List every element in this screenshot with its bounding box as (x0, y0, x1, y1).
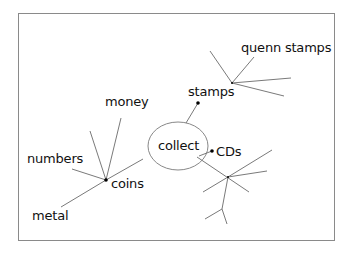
cds-sub-line-5 (205, 209, 222, 219)
numbers-line (72, 169, 106, 180)
stamps-connector (186, 103, 198, 123)
cds-sub-line-6 (222, 209, 227, 224)
money-label: money (105, 95, 149, 108)
cds-hub-dot (227, 176, 229, 178)
stamps-sub-line-1 (210, 51, 232, 83)
cds-sub-line-4 (222, 177, 228, 209)
cds-sub-line-2 (228, 171, 267, 177)
cds-label: CDs (216, 145, 241, 158)
stamps-sub-line-3 (232, 83, 284, 96)
metal-line (61, 180, 106, 207)
coins-dot (104, 178, 108, 182)
cds-dot (210, 149, 214, 153)
stamps-label: stamps (188, 85, 234, 98)
coins-unlabeled-line (90, 131, 106, 180)
numbers-label: numbers (27, 152, 83, 165)
quenn-stamps-line (232, 57, 254, 83)
center-node-label: collect (158, 139, 199, 152)
coins-label: coins (111, 177, 144, 190)
money-line (106, 118, 121, 180)
stamps-sub-line-2 (232, 78, 291, 83)
cds-sub-line-3 (203, 177, 228, 192)
stamps-dot (196, 101, 200, 105)
quenn-stamps-label: quenn stamps (241, 41, 331, 54)
metal-label: metal (32, 209, 68, 222)
